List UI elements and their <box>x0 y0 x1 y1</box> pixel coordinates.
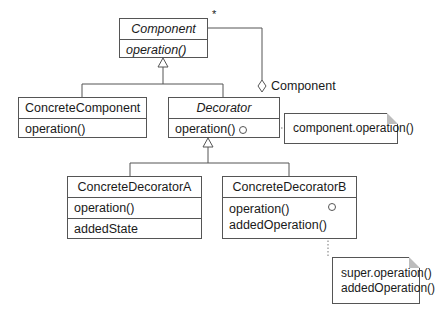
class-attribute: addedState <box>68 218 201 239</box>
class-operation: operation() <box>19 118 146 139</box>
class-component[interactable]: Component operation() <box>119 18 208 58</box>
class-operation-row: operation() <box>169 118 279 139</box>
class-name: ConcreteDecoratorA <box>68 177 201 197</box>
note-line: addedOperation() <box>341 281 411 296</box>
note-decorator-b: super.operation() addedOperation() <box>332 257 420 304</box>
inheritance-decorator <box>130 138 289 176</box>
note-fold-icon <box>387 113 398 124</box>
inheritance-component <box>82 58 223 97</box>
note-anchor-circle-icon <box>328 203 336 211</box>
role-label: Component <box>271 79 336 93</box>
class-operation: operation() <box>120 39 207 60</box>
aggregation-component <box>207 28 266 92</box>
class-concrete-decorator-b[interactable]: ConcreteDecoratorB operation() addedOper… <box>222 176 357 239</box>
note-decorator: component.operation() <box>284 113 398 144</box>
note-anchor-circle-icon <box>239 126 247 134</box>
class-operation: operation() <box>68 197 201 218</box>
class-operation: addedOperation() <box>229 217 350 233</box>
note-line: super.operation() <box>341 266 411 281</box>
class-concrete-decorator-a[interactable]: ConcreteDecoratorA operation() addedStat… <box>67 176 202 239</box>
note-fold-icon <box>409 257 420 268</box>
class-name: Decorator <box>169 98 279 118</box>
class-concrete-component[interactable]: ConcreteComponent operation() <box>18 97 147 138</box>
class-operation: operation() <box>175 122 235 136</box>
class-operations: operation() addedOperation() <box>223 197 356 235</box>
class-decorator[interactable]: Decorator operation() <box>168 97 280 138</box>
note-line: component.operation() <box>293 121 389 136</box>
class-name: ConcreteComponent <box>19 98 146 118</box>
multiplicity-label: * <box>212 8 216 20</box>
class-name: Component <box>120 19 207 39</box>
class-name: ConcreteDecoratorB <box>223 177 356 197</box>
